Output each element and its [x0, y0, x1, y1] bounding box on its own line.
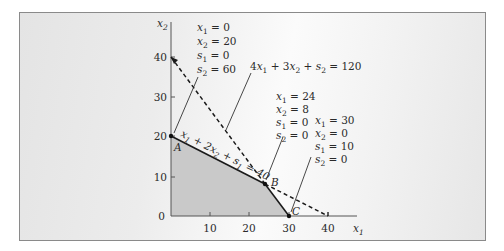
- annotation-c: x1 = 30 x2 = 0 s1 = 10 s2 = 0: [315, 114, 355, 168]
- leader-a: [174, 77, 198, 133]
- annotation-a: x1 = 0 x2 = 20 s1 = 0 s2 = 60: [197, 21, 237, 78]
- lp-diagram: 10 20 30 40 0 10 20 30 40 x1 x2 A B C x1…: [0, 0, 504, 251]
- y-tick-label-40: 40: [154, 51, 167, 63]
- leader-c: [291, 157, 311, 212]
- svg-text:x2 = 20: x2 = 20: [197, 35, 237, 50]
- point-b-marker: [263, 182, 267, 186]
- x-tick-label-40: 40: [321, 222, 334, 234]
- annotation-b: x1 = 24 x2 = 8 s1 = 0 s2 = 0: [276, 90, 316, 144]
- x-tick-label-10: 10: [203, 222, 216, 234]
- point-a-marker: [169, 134, 173, 138]
- y-axis-label: x2: [157, 17, 168, 32]
- leader-c2-eq: [226, 73, 251, 130]
- y-tick-label-20: 20: [154, 130, 167, 142]
- y-tick-label-30: 30: [154, 91, 167, 103]
- svg-text:s2 = 60: s2 = 60: [197, 63, 236, 78]
- arrowhead-icon: [171, 57, 178, 64]
- constraint-2-equation: 4x1 + 3x2 + s2 = 120: [250, 60, 361, 75]
- svg-text:s1 = 0: s1 = 0: [197, 49, 229, 64]
- x-tick-label-20: 20: [242, 222, 255, 234]
- svg-text:s2 = 0: s2 = 0: [315, 153, 347, 168]
- point-b-label: B: [270, 176, 279, 188]
- point-a-label: A: [173, 141, 182, 153]
- point-c-marker: [287, 214, 291, 218]
- x-tick-label-30: 30: [282, 222, 295, 234]
- y-tick-label-0: 0: [158, 210, 165, 222]
- y-tick-label-10: 10: [154, 171, 167, 183]
- svg-text:x1 = 0: x1 = 0: [197, 21, 230, 36]
- point-c-label: C: [292, 205, 300, 217]
- x-axis-label: x1: [353, 222, 364, 237]
- svg-text:s2 = 0: s2 = 0: [276, 129, 308, 144]
